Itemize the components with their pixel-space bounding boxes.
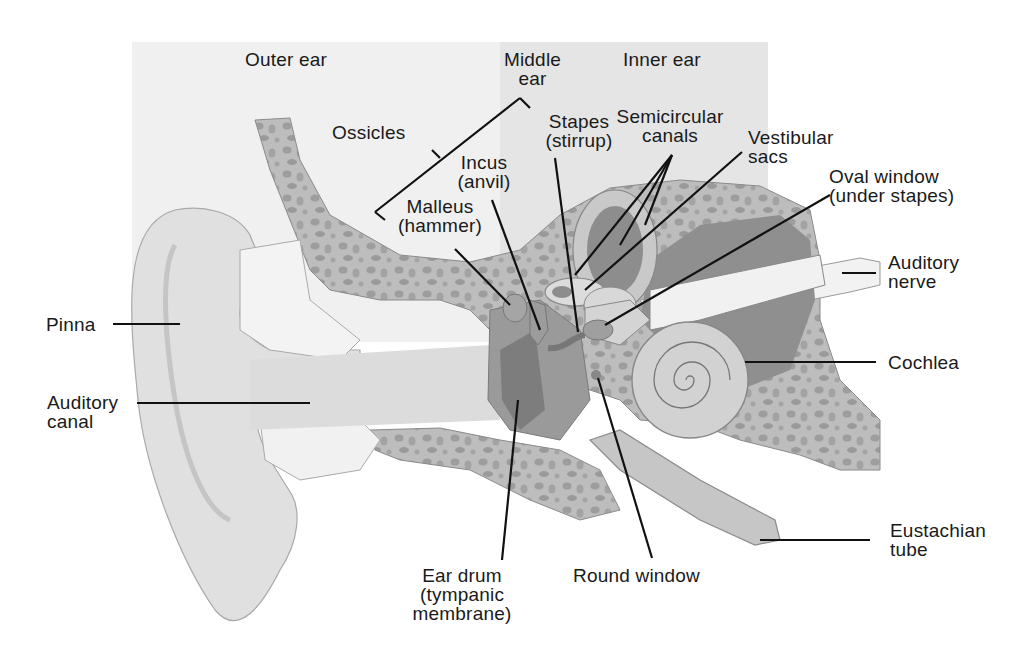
ear-anatomy-diagram: Outer ear Middleear Inner ear Ossicles S… — [0, 0, 1030, 661]
label-auditory-nerve: Auditorynerve — [888, 253, 959, 291]
label-oval-window: Oval window(under stapes) — [829, 167, 954, 205]
label-malleus: Malleus(hammer) — [388, 197, 492, 235]
label-cochlea: Cochlea — [888, 353, 959, 372]
label-round-window: Round window — [573, 566, 700, 585]
region-middle-ear: Middleear — [495, 50, 570, 88]
label-ossicles: Ossicles — [332, 123, 405, 142]
ear-illustration — [0, 0, 1030, 661]
region-inner-ear: Inner ear — [623, 50, 701, 69]
label-semicircular-canals: Semicircularcanals — [605, 107, 735, 145]
label-ear-drum: Ear drum(tympanicmembrane) — [410, 566, 514, 623]
label-eustachian-tube: Eustachiantube — [890, 521, 986, 559]
label-pinna: Pinna — [46, 315, 96, 334]
label-incus: Incus(anvil) — [451, 153, 517, 191]
region-outer-ear: Outer ear — [245, 50, 327, 69]
label-auditory-canal: Auditorycanal — [47, 393, 118, 431]
label-vestibular-sacs: Vestibularsacs — [748, 128, 833, 166]
